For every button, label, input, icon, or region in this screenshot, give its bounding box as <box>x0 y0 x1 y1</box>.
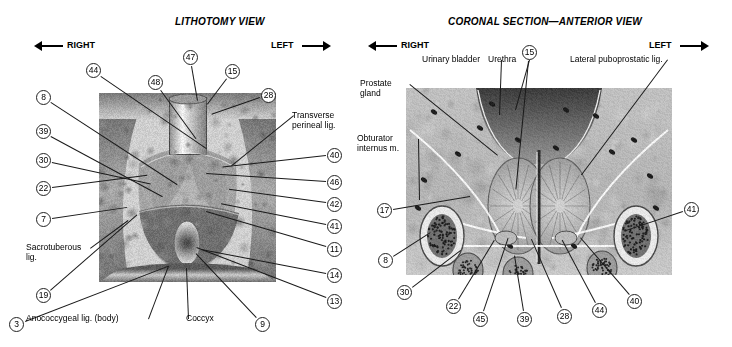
structure-label-obturator-internus-m: Obturator internus m. <box>357 133 417 153</box>
structure-label-urethra: Urethra <box>488 54 528 64</box>
structure-number-41[interactable]: 41 <box>684 202 699 217</box>
structure-number-30[interactable]: 30 <box>397 285 412 300</box>
structure-number-40[interactable]: 40 <box>627 294 642 309</box>
structure-label-lateral-puboprostatic-lig: Lateral puboprostatic lig. <box>570 54 666 64</box>
structure-number-44[interactable]: 44 <box>592 303 607 318</box>
labels-coronal: 151783022453928444041Urinary bladderUret… <box>0 0 732 347</box>
structure-number-17[interactable]: 17 <box>377 203 392 218</box>
structure-number-45[interactable]: 45 <box>473 312 488 327</box>
structure-number-28[interactable]: 28 <box>557 309 572 324</box>
structure-number-8[interactable]: 8 <box>378 253 393 268</box>
structure-number-39[interactable]: 39 <box>517 312 532 327</box>
structure-label-prostate-gland: Prostate gland <box>360 78 408 98</box>
structure-number-22[interactable]: 22 <box>446 299 461 314</box>
